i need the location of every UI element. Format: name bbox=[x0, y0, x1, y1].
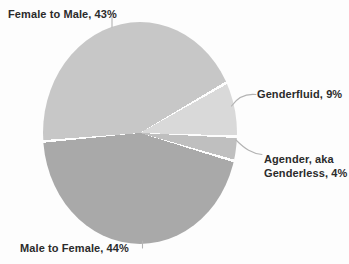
slice-label-agender: Agender, aka Genderless, 4% bbox=[264, 153, 347, 180]
slice-label-male-to-female: Male to Female, 44% bbox=[20, 242, 129, 256]
pie-chart: Female to Male, 43% Genderfluid, 9% Agen… bbox=[0, 0, 349, 264]
slice-label-agender-line1: Agender, aka bbox=[264, 153, 347, 167]
leader-line-genderfluid bbox=[232, 94, 257, 106]
slice-label-agender-line2: Genderless, 4% bbox=[264, 167, 347, 181]
leader-line-agender bbox=[236, 140, 262, 155]
pie-graphic bbox=[43, 22, 237, 244]
slice-label-female-to-male: Female to Male, 43% bbox=[8, 8, 117, 22]
slice-label-genderfluid: Genderfluid, 9% bbox=[257, 88, 342, 102]
